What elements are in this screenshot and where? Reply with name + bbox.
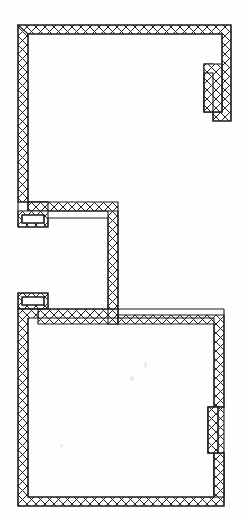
floor-plan-canvas: Floor Plan Outline Single-line monochrom… (0, 0, 248, 521)
lower-central-wall (38, 309, 118, 324)
bottom-right-recess-jamb (208, 407, 218, 453)
floor-plan-drawing: Floor Plan Outline Single-line monochrom… (0, 0, 248, 521)
